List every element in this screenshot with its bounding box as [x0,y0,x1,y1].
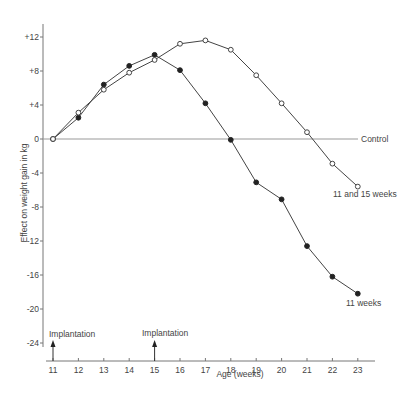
data-point [228,137,233,142]
x-tick-label: 20 [277,365,287,375]
implantation-label-week-15: Implantation [142,328,189,338]
y-tick-label: -24 [27,338,40,348]
y-axis-label: Effect on weight gain in kg [19,143,29,242]
x-axis: 11121314151617181920212223 [46,358,375,375]
x-tick-label: 23 [353,365,363,375]
data-point [152,52,157,57]
y-tick-label: +8 [29,66,39,76]
series-11-weeks [51,52,361,296]
series-11-and-15-weeks [51,38,361,189]
y-tick-label: -20 [27,304,40,314]
implantation-label-week-11: Implantation [49,329,96,339]
x-tick-label: 11 [49,365,58,375]
series-label-11-and-15-weeks: 11 and 15 weeks [333,189,397,199]
y-tick-label: 0 [34,134,39,144]
data-point [330,161,335,166]
x-tick-label: 17 [201,365,211,375]
x-tick-label: 15 [150,365,160,375]
data-point [178,41,183,46]
data-point [51,137,56,142]
data-point [101,87,106,92]
x-tick-label: 14 [124,365,134,375]
data-point [305,130,310,135]
data-point [330,274,335,279]
y-tick-label: -4 [31,168,39,178]
arrow-up-icon [51,340,56,347]
data-point [101,82,106,87]
data-point [152,58,157,63]
weight-gain-chart: +12+8+40-4-8-12-16-20-24 111213141516171… [0,0,412,393]
control-label: Control [361,134,389,144]
data-point [355,291,360,296]
y-tick-label: +12 [25,32,40,42]
data-point [254,73,259,78]
arrow-up-icon [152,340,157,347]
x-tick-label: 12 [74,365,84,375]
data-point [254,180,259,185]
y-tick-label: -16 [27,270,40,280]
data-point [305,244,310,249]
data-point [178,68,183,73]
implantation-markers: Implantation Implantation [49,328,189,361]
data-point [203,101,208,106]
data-point [127,70,132,75]
y-tick-label: -8 [31,202,39,212]
y-tick-label: +4 [29,100,39,110]
x-tick-label: 21 [302,365,312,375]
data-point [76,115,81,120]
data-point [279,197,284,202]
data-point [279,101,284,106]
data-point [76,110,81,115]
data-point [203,38,208,43]
data-point [127,64,132,69]
data-point [228,47,233,52]
x-axis-label: Age (weeks) [216,369,263,379]
x-tick-label: 22 [328,365,338,375]
series-label-11-weeks: 11 weeks [346,298,381,308]
x-tick-label: 13 [99,365,109,375]
x-tick-label: 16 [175,365,185,375]
